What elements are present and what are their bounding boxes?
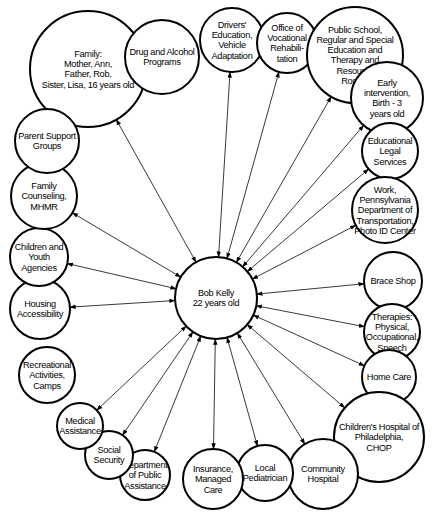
- center-node-bob-kelly: Bob Kelly22 years old: [175, 257, 257, 339]
- edge-center-counseling: [72, 213, 180, 277]
- node-pediatrician: LocalPediatrician: [237, 445, 293, 501]
- node-label-line: Medical: [65, 416, 95, 426]
- edge-center-housing: [70, 301, 175, 308]
- node-label-line: Housing: [24, 299, 56, 309]
- edge-center-ovr: [227, 72, 279, 259]
- node-housing: HousingAccessibility: [10, 279, 70, 339]
- node-label-line: Transportation,: [357, 216, 414, 226]
- node-label-line: Legal: [380, 146, 401, 156]
- node-label-line: Hospital: [308, 474, 339, 484]
- edge-center-community: [237, 333, 305, 444]
- node-label-line: Photo ID Center: [354, 226, 416, 236]
- node-label-line: Camps: [33, 381, 61, 391]
- edge-center-family: [116, 120, 196, 263]
- node-label-line: Recreational: [23, 360, 71, 370]
- node-label-line: Youth: [28, 252, 50, 262]
- node-label-line: Accessibility: [17, 309, 64, 319]
- node-label-line: Work,: [374, 185, 396, 195]
- node-label-line: Programs: [143, 57, 181, 67]
- node-label-line: 22 years old: [193, 298, 240, 308]
- node-label-line: Sister, Lisa, 16 years old: [42, 80, 134, 90]
- node-children: Children andYouthAgencies: [10, 228, 68, 286]
- node-label-line: Parent Support: [18, 131, 76, 141]
- node-label-line: Services: [374, 157, 408, 167]
- node-community: CommunityHospital: [288, 439, 358, 509]
- node-label-line: Educational: [368, 136, 413, 146]
- edge-center-drivers: [219, 72, 230, 257]
- node-label-line: Children's Hospital of: [339, 422, 420, 432]
- node-label-line: Regular and Special: [316, 35, 393, 45]
- node-parent: Parent SupportGroups: [15, 109, 79, 173]
- node-label-line: Community: [301, 464, 345, 474]
- edge-center-children: [67, 264, 176, 289]
- node-label-line: Agencies: [21, 263, 57, 273]
- node-label-line: Philadelphia,: [355, 432, 404, 442]
- node-recreation: RecreationalActivities,Camps: [19, 347, 75, 403]
- node-label-line: Managed: [195, 474, 231, 484]
- node-label-line: Therapies:: [372, 312, 412, 322]
- edge-center-social: [123, 332, 193, 435]
- node-label-line: tation: [277, 54, 298, 64]
- node-label-line: of Public: [129, 470, 162, 480]
- edge-center-pediatrician: [227, 337, 257, 446]
- node-label-line: Care: [204, 485, 223, 495]
- node-label-line: MHMR: [30, 202, 58, 212]
- node-label-line: Father, Rob,: [65, 69, 112, 79]
- node-label-line: Family: [31, 181, 57, 191]
- edge-center-chop: [247, 325, 345, 408]
- node-label-line: Department of: [358, 205, 413, 215]
- node-legal: EducationalLegalServices: [362, 123, 418, 179]
- node-label-line: Activities,: [29, 370, 65, 380]
- nodes-layer: Family:Mother, Ann,Father, Rob,Sister, L…: [10, 7, 424, 509]
- node-label-line: Pennsylvania: [359, 195, 411, 205]
- node-label-line: years old: [370, 109, 405, 119]
- node-drivers: Drivers'Education,VehicleAdaptation: [200, 8, 264, 72]
- node-label-line: Adaptation: [212, 51, 253, 61]
- node-label-line: Vehicle: [218, 40, 246, 50]
- node-label-line: Groups: [33, 141, 62, 151]
- node-insurance: Insurance,ManagedCare: [183, 449, 243, 509]
- edge-center-homecare: [253, 315, 364, 366]
- node-label-line: Assistance: [59, 426, 101, 436]
- node-label-line: Occupational,: [366, 332, 418, 342]
- edge-center-dpa: [154, 336, 200, 452]
- node-label-line: Education and: [328, 45, 383, 55]
- node-label-line: Bob Kelly: [198, 288, 235, 298]
- node-label-line: Assistance: [124, 481, 166, 491]
- node-label-line: Counseling,: [21, 191, 66, 201]
- node-label-line: Early: [377, 78, 397, 88]
- node-work: Work,PennsylvaniaDepartment ofTransporta…: [352, 177, 418, 243]
- edge-center-work: [252, 225, 355, 279]
- node-drug: Drug and AlcoholPrograms: [125, 20, 199, 94]
- node-label-line: Education,: [212, 30, 252, 40]
- node-medical: MedicalAssistance: [57, 403, 103, 449]
- node-label-line: Family:: [74, 49, 102, 59]
- node-label-line: Birth - 3: [372, 98, 402, 108]
- node-label-line: Insurance,: [193, 464, 233, 474]
- edge-center-legal: [247, 169, 368, 271]
- node-label-line: CHOP: [366, 443, 392, 453]
- node-label-line: Pediatrician: [243, 473, 288, 483]
- edge-center-brace: [257, 284, 364, 294]
- node-label-line: Mother, Ann,: [64, 59, 112, 69]
- node-label-line: Children and: [15, 242, 64, 252]
- edge-center-medical: [97, 326, 186, 410]
- node-label-line: Drivers': [218, 20, 247, 30]
- edge-center-insurance: [213, 339, 215, 449]
- node-label-line: Social: [97, 445, 120, 455]
- node-label-line: Physical,: [375, 322, 409, 332]
- node-label-line: Rehabili-: [270, 43, 304, 53]
- node-label-line: Local: [255, 463, 276, 473]
- node-label-line: Public School,: [328, 25, 382, 35]
- node-label-line: Office of: [271, 23, 303, 33]
- node-label-line: Drug and Alcohol: [129, 47, 194, 57]
- support-network-diagram: Family:Mother, Ann,Father, Rob,Sister, L…: [0, 0, 433, 519]
- node-label-line: intervention,: [364, 88, 410, 98]
- node-label-line: Vocational: [267, 33, 307, 43]
- node-label-line: Therapy and: [331, 55, 379, 65]
- node-label-line: Brace Shop: [370, 276, 415, 286]
- node-brace: Brace Shop: [364, 252, 422, 310]
- node-label-line: Home Care: [367, 372, 411, 382]
- node-label-line: Security: [94, 455, 125, 465]
